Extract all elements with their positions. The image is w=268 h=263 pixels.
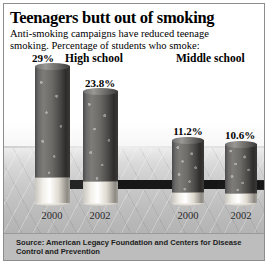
- x-axis-year-label: 2002: [74, 210, 126, 221]
- source-band: Source: American Legacy Foundation and C…: [4, 233, 264, 260]
- bar-cigarette: [35, 66, 70, 203]
- cigarette-top: [35, 63, 70, 70]
- cigarette-top: [172, 137, 204, 144]
- subtitle: Anti-smoking campaigns have reduced teen…: [10, 28, 228, 51]
- x-axis-year-label: 2000: [162, 210, 214, 221]
- bar-cigarette: [225, 144, 257, 203]
- chart-area: High school Middle school 29% 2000 23.8%…: [4, 53, 264, 234]
- cigarette-filter: [225, 193, 257, 203]
- x-axis-year-label: 2002: [215, 210, 264, 221]
- bar-cigarette: [83, 91, 118, 203]
- group-label-high-school: High school: [65, 53, 123, 64]
- bar-cigarette: [172, 140, 204, 203]
- cigarette-top: [225, 141, 257, 148]
- infographic: Teenagers butt out of smoking Anti-smoki…: [0, 0, 268, 263]
- cigarette-filter: [35, 177, 70, 203]
- group-label-middle-school: Middle school: [176, 53, 245, 64]
- source-credit: Source: American Legacy Foundation and C…: [16, 238, 246, 256]
- bar-value-label: 11.2%: [164, 125, 212, 137]
- cigarette-filter: [83, 181, 118, 203]
- bar-value-label: 10.6%: [216, 129, 264, 141]
- page-title: Teenagers butt out of smoking: [10, 9, 260, 26]
- cigarette-top: [83, 88, 118, 95]
- cigarette-filter: [172, 192, 204, 203]
- x-axis-year-label: 2000: [26, 210, 78, 221]
